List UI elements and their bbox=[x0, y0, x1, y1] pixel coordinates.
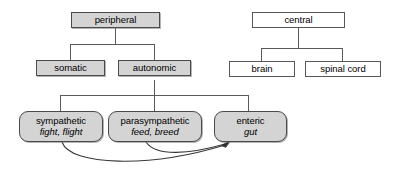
node-spinal-cord[interactable]: spinal cord bbox=[305, 61, 381, 77]
node-spinal-cord-label: spinal cord bbox=[320, 64, 365, 74]
node-sympathetic-sublabel: fight, flight bbox=[40, 127, 83, 137]
node-enteric-label: enteric bbox=[236, 116, 264, 126]
node-parasympathetic-label: parasympathetic bbox=[121, 116, 190, 126]
node-enteric-sublabel: gut bbox=[244, 127, 257, 137]
node-brain-label: brain bbox=[252, 64, 273, 74]
node-sympathetic[interactable]: sympathetic fight, flight bbox=[19, 111, 103, 142]
node-peripheral[interactable]: peripheral bbox=[71, 12, 160, 28]
node-central-label: central bbox=[284, 15, 312, 25]
node-somatic-label: somatic bbox=[54, 63, 86, 73]
arrow-sympathetic-to-enteric bbox=[62, 142, 225, 161]
node-central[interactable]: central bbox=[252, 12, 345, 28]
node-enteric[interactable]: enteric gut bbox=[214, 111, 287, 142]
node-parasympathetic[interactable]: parasympathetic feed, breed bbox=[108, 111, 202, 142]
node-autonomic[interactable]: autonomic bbox=[118, 60, 191, 76]
node-peripheral-label: peripheral bbox=[95, 15, 137, 25]
arrow-parasympathetic-to-enteric bbox=[146, 142, 225, 152]
node-autonomic-label: autonomic bbox=[133, 63, 176, 73]
node-brain[interactable]: brain bbox=[229, 61, 295, 77]
node-sympathetic-label: sympathetic bbox=[36, 116, 86, 126]
nervous-system-diagram: peripheral somatic autonomic sympathetic… bbox=[0, 0, 395, 173]
node-parasympathetic-sublabel: feed, breed bbox=[131, 127, 179, 137]
node-somatic[interactable]: somatic bbox=[36, 60, 105, 76]
